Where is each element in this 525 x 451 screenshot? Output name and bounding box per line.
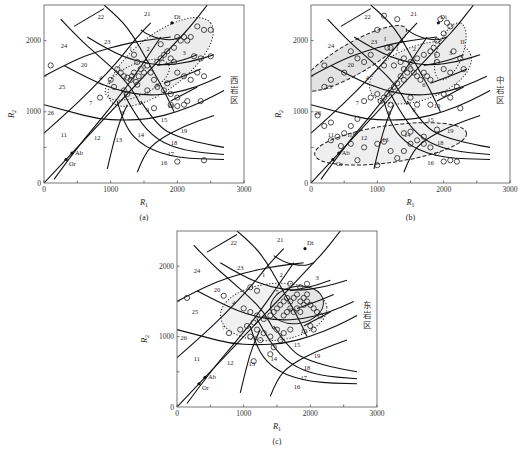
x-axis-label: R1 [139, 197, 148, 208]
mineral-label: Di [307, 239, 314, 246]
x-tick-label: 3000 [370, 409, 385, 418]
field-label: 16 [427, 159, 434, 166]
x-axis-label: R1 [405, 197, 414, 208]
field-label: 1 [129, 45, 132, 52]
mineral-label: Ab [75, 149, 83, 156]
field-label: 22 [230, 239, 237, 246]
field-label: 19 [314, 352, 321, 359]
mineral-label: Or [202, 384, 210, 391]
mineral-point [303, 247, 306, 250]
field-label: 22 [97, 13, 104, 20]
sample-point [454, 159, 459, 164]
x-tick-label: 2000 [170, 185, 185, 194]
panel-a: 1234567891011121314151617181920212223242… [6, 2, 252, 222]
sample-point [226, 331, 231, 336]
mineral-point [331, 158, 334, 161]
y-tick-label: 2000 [293, 36, 308, 45]
field-label: 20 [214, 286, 221, 293]
y-tick-label: 1000 [159, 332, 174, 341]
region-label: 岩 [230, 85, 239, 95]
y-tick-label: 1000 [293, 107, 308, 116]
field-label: 12 [361, 134, 368, 141]
region-label: 岩 [496, 85, 505, 95]
panel-caption: (b) [406, 213, 416, 222]
sample-point [188, 77, 193, 82]
sample-point [448, 95, 453, 100]
sample-point [304, 281, 309, 286]
field-label: 25 [192, 308, 199, 315]
x-tick-label: 0 [309, 185, 313, 194]
x-tick-label: 1000 [370, 185, 385, 194]
group-label: II [460, 38, 465, 46]
field-label: 24 [61, 42, 68, 49]
field-label: 5 [275, 288, 278, 295]
field-label: 8 [254, 334, 257, 341]
x-tick-label: 1000 [236, 409, 251, 418]
field-label: 16 [294, 383, 301, 390]
sample-point [458, 106, 463, 111]
y-tick-label: 0 [37, 179, 41, 188]
field-label: 7 [356, 99, 360, 106]
field-label: 7 [89, 99, 93, 106]
field-label: 17 [167, 150, 174, 157]
panel-caption: (a) [140, 213, 149, 222]
field-label: 26 [47, 109, 54, 116]
y-axis-label: R2 [273, 110, 284, 119]
plot-area: 1234567891011121314151617181920212223242… [294, 5, 490, 183]
group-label: III [347, 131, 355, 139]
field-label: 25 [59, 83, 66, 90]
field-label: 26 [180, 334, 187, 341]
region-label: 岩 [363, 310, 372, 320]
y-tick-label: 0 [170, 403, 174, 412]
field-label: 20 [348, 61, 355, 68]
sample-point [448, 158, 453, 163]
field-label: 1 [262, 271, 265, 278]
mineral-point [170, 21, 173, 24]
sample-point [415, 102, 420, 107]
field-label: 8 [121, 109, 124, 116]
field-label: 15 [161, 116, 168, 123]
field-label: 13 [115, 136, 122, 143]
sample-point [322, 123, 327, 128]
field-label: 24 [194, 267, 201, 274]
mineral-label: Di [440, 13, 447, 20]
field-label: 21 [411, 10, 418, 17]
field-label: 3 [182, 49, 185, 56]
figure: 1234567891011121314151617181920212223242… [0, 0, 525, 451]
region-label: 区 [496, 95, 505, 105]
field-label: 9 [412, 106, 415, 113]
field-label: 18 [304, 364, 311, 371]
field-label: 10 [300, 327, 307, 334]
field-label: 17 [300, 374, 307, 381]
y-axis-label: R2 [6, 110, 17, 119]
plot-area: 1234567891011121314151617181920212223242… [177, 231, 357, 407]
x-tick-label: 1000 [103, 185, 118, 194]
field-label: 2 [146, 45, 149, 52]
mineral-label: Or [69, 160, 77, 167]
plot-area: 1234567891011121314151617181920212223242… [44, 2, 227, 183]
panel-b: 1234567891011121314151617181920212223242… [273, 5, 518, 222]
x-tick-label: 3000 [503, 185, 518, 194]
field-label: 3 [315, 274, 318, 281]
mineral-label: Ab [342, 149, 350, 156]
mineral-label: Ab [208, 373, 216, 380]
sample-point [151, 106, 156, 111]
field-label: 15 [294, 341, 301, 348]
region-label: 中 [496, 75, 505, 85]
y-axis-label: R2 [139, 335, 150, 344]
sample-point [368, 95, 373, 100]
region-label: 西 [230, 75, 239, 85]
x-tick-label: 2000 [303, 409, 318, 418]
x-tick-label: 2000 [436, 185, 451, 194]
field-label: 22 [364, 13, 371, 20]
sample-point [175, 104, 180, 109]
mineral-label: Or [336, 160, 344, 167]
field-label: 10 [434, 102, 441, 109]
field-label: 21 [144, 10, 151, 17]
field-label: 24 [328, 42, 335, 49]
field-label: 18 [171, 139, 178, 146]
sample-point [362, 99, 367, 104]
field-label: 12 [227, 359, 234, 366]
field-label: 8 [388, 109, 391, 116]
mineral-point [197, 382, 200, 385]
